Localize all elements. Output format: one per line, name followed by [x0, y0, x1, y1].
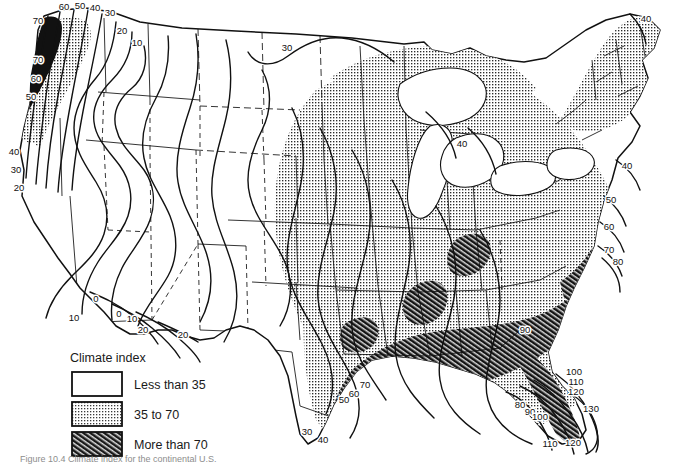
- contour-label: 60: [59, 1, 70, 12]
- contour-label: 50: [606, 194, 617, 205]
- map-legend: Climate index Less than 35 35 to 70 More…: [70, 351, 208, 456]
- contour-label: 100: [532, 411, 548, 422]
- contour-label: 0: [93, 293, 98, 304]
- contour-label: 70: [33, 15, 44, 26]
- legend-label-1: 35 to 70: [134, 408, 179, 422]
- contour-label: 10: [127, 313, 138, 324]
- contour-label: 70: [33, 54, 44, 65]
- contour-label: 20: [117, 25, 128, 36]
- legend-swatch-blank: [72, 372, 122, 396]
- contour-label: 10: [69, 312, 80, 323]
- contour-label: 30: [105, 7, 116, 18]
- contour-label: 40: [622, 160, 633, 171]
- legend-swatch-hatch: [72, 432, 122, 456]
- contour-label: 30: [282, 42, 293, 53]
- contour-label: 40: [9, 146, 20, 157]
- map-canvas: 7070606050504040303020201010707060605050…: [0, 0, 675, 464]
- contour-label: 130: [583, 403, 599, 414]
- legend-label-2: More than 70: [134, 438, 208, 452]
- figure-caption: Figure 10.4 Climate index for the contin…: [20, 454, 217, 464]
- contour-label: 40: [641, 13, 652, 24]
- contour-label: 10: [132, 37, 143, 48]
- contour-label: 50: [26, 91, 37, 102]
- contour-label: 70: [604, 244, 615, 255]
- contour-label: 20: [178, 329, 189, 340]
- contour-label: 40: [318, 434, 329, 445]
- contour-label: 40: [90, 2, 101, 13]
- contour-label: 50: [75, 0, 86, 11]
- legend-swatch-stipple: [72, 402, 122, 426]
- climate-index-map-figure: 7070606050504040303020201010707060605050…: [0, 0, 675, 464]
- contour-label: 120: [565, 437, 581, 448]
- contour-label: 60: [604, 221, 615, 232]
- contour-label: 30: [302, 426, 313, 437]
- contour-label: 0: [116, 308, 121, 319]
- contour-label: 90: [520, 324, 531, 335]
- contour-label: 110: [542, 438, 557, 449]
- contour-label: 60: [31, 73, 42, 84]
- contour-label: 120: [568, 386, 584, 397]
- contour-label: 60: [349, 388, 360, 399]
- contour-label: 80: [613, 256, 624, 267]
- legend-label-0: Less than 35: [134, 378, 206, 392]
- contour-label: 20: [14, 182, 25, 193]
- contour-label: 20: [138, 324, 149, 335]
- legend-title: Climate index: [70, 351, 146, 365]
- contour-label: 30: [11, 164, 22, 175]
- contour-label: 40: [457, 138, 468, 149]
- contour-label: 70: [360, 379, 371, 390]
- contour-label: 50: [339, 394, 350, 405]
- contour-label: 80: [515, 399, 526, 410]
